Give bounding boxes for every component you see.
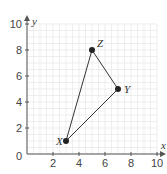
y-tick-label: 4 [16, 96, 22, 108]
y-tick-label: 10 [10, 18, 22, 30]
point-x [63, 138, 69, 144]
point-label: Z [97, 37, 104, 49]
point-label: X [55, 135, 64, 147]
point-y [115, 86, 121, 92]
x-tick-label: 6 [102, 157, 108, 169]
x-tick-label: 8 [128, 157, 134, 169]
x-tick-label: 2 [50, 157, 56, 169]
x-tick-label: 4 [76, 157, 82, 169]
y-axis-arrow-icon [24, 15, 30, 21]
origin-label: 0 [16, 150, 22, 162]
point-z [89, 47, 95, 53]
x-axis-label: x [160, 139, 166, 151]
x-tick-label: 10 [151, 157, 163, 169]
y-tick-label: 2 [16, 122, 22, 134]
y-axis-label: y [31, 15, 37, 27]
y-tick-label: 8 [16, 44, 22, 56]
y-tick-label: 6 [16, 70, 22, 82]
coordinate-plot: 2468102468100xyXYZ [0, 0, 167, 174]
